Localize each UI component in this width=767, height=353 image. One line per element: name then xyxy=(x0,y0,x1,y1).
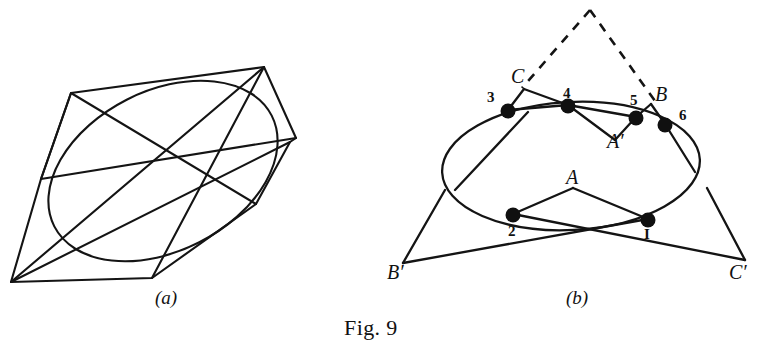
point-5-dot xyxy=(629,111,644,126)
point-6-dot xyxy=(658,118,673,133)
point-label-4: 4 xyxy=(563,86,571,101)
panel-a-drawing xyxy=(0,0,384,353)
point-2-dot xyxy=(506,208,521,223)
side-2-A xyxy=(513,188,573,214)
side-A-1 xyxy=(573,188,648,219)
point-label-3: 3 xyxy=(487,90,495,105)
figure-9: (a) xyxy=(0,0,767,353)
point-label-B-prime: B′ xyxy=(387,262,404,282)
line-Bprime-to-1 xyxy=(403,219,648,263)
point-label-B: B xyxy=(655,84,667,104)
point-3-dot xyxy=(501,104,516,119)
dashed-line-right xyxy=(590,10,655,101)
panel-a-sub-caption: (a) xyxy=(155,288,177,307)
ellipse-a xyxy=(18,44,308,297)
point-label-2: 2 xyxy=(508,224,516,239)
point-label-6: 6 xyxy=(679,108,687,123)
chord-a-4 xyxy=(152,67,264,278)
point-label-5: 5 xyxy=(630,93,638,108)
side-6-1-ext xyxy=(665,124,695,172)
line-Cprime-upper xyxy=(707,188,745,260)
side-3-2-ext xyxy=(455,112,528,190)
point-label-C: C xyxy=(511,66,524,86)
figure-caption: Fig. 9 xyxy=(344,317,398,339)
point-label-C-prime: C′ xyxy=(729,262,747,282)
line-Bprime-upper xyxy=(403,190,445,263)
panel-b-sub-caption: (b) xyxy=(566,288,588,307)
dashed-line-left xyxy=(522,10,590,88)
point-label-A-prime: A′ xyxy=(607,131,624,151)
point-label-A: A xyxy=(566,167,578,187)
point-label-1: I xyxy=(644,227,650,242)
